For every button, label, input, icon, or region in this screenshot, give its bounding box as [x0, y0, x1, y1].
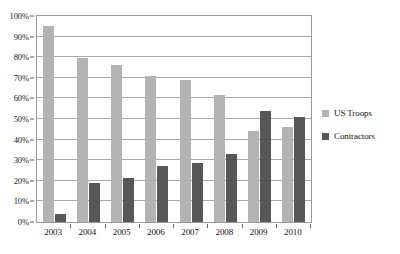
bar-contractors-2010	[294, 117, 305, 222]
y-tick-label: 0%	[18, 218, 29, 227]
y-tick-mark	[30, 139, 34, 140]
x-tick-label: 2008	[216, 227, 234, 237]
y-tick-mark	[30, 16, 34, 17]
bar-us-troops-2008	[214, 95, 225, 222]
bar-us-troops-2003	[43, 26, 54, 222]
bar-contractors-2003	[55, 214, 66, 222]
x-tick-mark	[242, 224, 243, 228]
bar-us-troops-2006	[145, 76, 156, 222]
y-tick-mark	[30, 180, 34, 181]
bar-contractors-2006	[157, 166, 168, 222]
legend-swatch-us-troops	[322, 110, 329, 117]
x-axis: 20032004200520062007200820092010	[36, 225, 312, 243]
x-tick-mark	[173, 224, 174, 228]
x-tick-mark	[139, 224, 140, 228]
bar-us-troops-2004	[77, 58, 88, 222]
bar-us-troops-2007	[180, 80, 191, 222]
x-tick-label: 2007	[181, 227, 199, 237]
bar-contractors-2008	[226, 154, 237, 222]
y-tick-mark	[30, 222, 34, 223]
y-tick-label: 10%	[14, 197, 29, 206]
y-tick-label: 40%	[14, 135, 29, 144]
bar-contractors-2009	[260, 111, 271, 222]
x-tick-label: 2004	[79, 227, 97, 237]
y-tick-mark	[30, 160, 34, 161]
y-tick-label: 80%	[14, 53, 29, 62]
y-tick-label: 30%	[14, 156, 29, 165]
y-tick-label: 70%	[14, 74, 29, 83]
x-tick-label: 2010	[284, 227, 302, 237]
legend-swatch-contractors	[322, 133, 329, 140]
legend-item-contractors: Contractors	[322, 131, 400, 141]
chart-legend: US Troops Contractors	[322, 108, 400, 154]
bar-contractors-2005	[123, 178, 134, 222]
y-axis: 0%10%20%30%40%50%60%70%80%90%100%	[0, 15, 34, 223]
y-tick-mark	[30, 98, 34, 99]
y-tick-mark	[30, 201, 34, 202]
y-tick-mark	[30, 36, 34, 37]
bar-chart: 0%10%20%30%40%50%60%70%80%90%100% 200320…	[0, 0, 400, 254]
x-tick-label: 2005	[113, 227, 131, 237]
y-tick-label: 60%	[14, 94, 29, 103]
y-tick-label: 90%	[14, 32, 29, 41]
bar-contractors-2007	[192, 163, 203, 222]
bar-us-troops-2009	[248, 131, 259, 222]
x-tick-mark	[207, 224, 208, 228]
x-tick-mark	[70, 224, 71, 228]
y-tick-label: 50%	[14, 115, 29, 124]
legend-label-contractors: Contractors	[334, 132, 375, 141]
y-tick-label: 100%	[10, 12, 29, 21]
bar-us-troops-2010	[282, 127, 293, 222]
x-tick-label: 2003	[44, 227, 62, 237]
bars-layer	[37, 16, 311, 222]
plot-area	[36, 15, 312, 223]
x-tick-mark	[105, 224, 106, 228]
x-tick-label: 2006	[147, 227, 165, 237]
x-tick-mark	[276, 224, 277, 228]
y-tick-mark	[30, 119, 34, 120]
bar-contractors-2004	[89, 183, 100, 222]
x-tick-label: 2009	[250, 227, 268, 237]
legend-label-us-troops: US Troops	[334, 109, 372, 118]
legend-item-us-troops: US Troops	[322, 108, 400, 118]
y-tick-mark	[30, 77, 34, 78]
y-tick-mark	[30, 57, 34, 58]
y-tick-label: 20%	[14, 177, 29, 186]
bar-us-troops-2005	[111, 65, 122, 222]
x-tick-mark	[310, 224, 311, 228]
